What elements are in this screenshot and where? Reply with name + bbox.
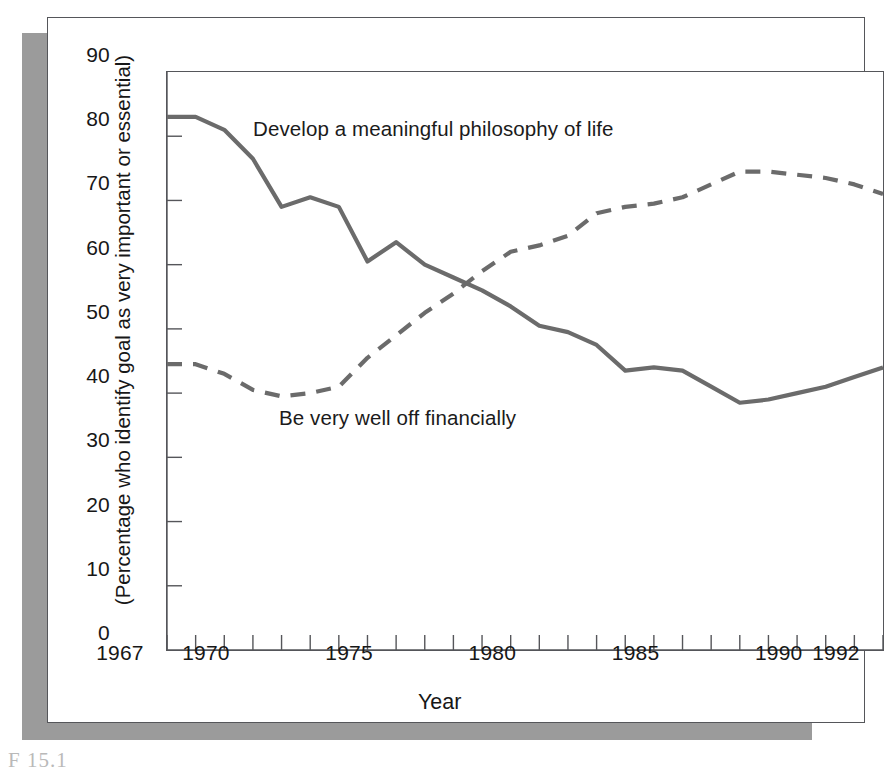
x-tick-label: 1970 [166,641,246,665]
y-tick-label: 10 [54,557,110,581]
x-tick-label: 1980 [452,641,532,665]
y-tick-label: 30 [54,428,110,452]
y-tick-label: 80 [54,107,110,131]
x-axis-title: Year [418,690,461,715]
y-tick-label: 70 [54,171,110,195]
x-tick-label: 1985 [596,641,676,665]
y-tick-label: 40 [54,364,110,388]
figure-panel: 0102030405060708090 19671970197519801985… [47,17,865,723]
x-tick-label: 1967 [80,641,160,665]
plot-area-frame [166,71,884,651]
series-label-philosophy: Develop a meaningful philosophy of life [253,117,614,141]
y-axis-title: (Percentage who identify goal as very im… [111,50,135,610]
y-tick-label: 50 [54,300,110,324]
x-tick-label: 1975 [309,641,389,665]
y-tick-label: 90 [54,43,110,67]
series-label-financial: Be very well off financially [279,406,516,430]
x-tick-label: 1992 [796,641,876,665]
figure-caption: F 15.1 [8,748,68,767]
y-tick-label: 60 [54,236,110,260]
y-tick-label: 20 [54,493,110,517]
